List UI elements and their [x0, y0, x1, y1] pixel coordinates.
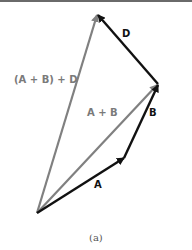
vector-d-arrow — [98, 15, 158, 84]
figure-caption: (a) — [89, 232, 103, 243]
vector-diagram — [0, 0, 192, 250]
vector-a-plus-b-arrow — [37, 85, 157, 213]
vector-b-arrow — [124, 85, 158, 158]
label-a-plus-b: A + B — [87, 108, 118, 118]
label-b: B — [149, 108, 157, 118]
label-ab-plus-d: (A + B) + D — [14, 75, 78, 85]
label-d: D — [122, 29, 130, 39]
label-a: A — [94, 180, 102, 190]
